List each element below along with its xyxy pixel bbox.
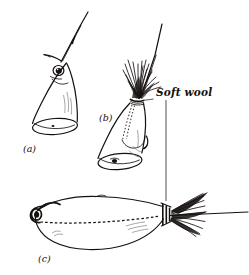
shading-a-3 (71, 98, 72, 115)
shading-b-1 (138, 130, 139, 148)
panel-b-label: (b) (99, 112, 113, 123)
panel-a-group: (a) (23, 12, 88, 154)
internal-dashed-line-c (41, 216, 161, 223)
shading-c-2 (54, 234, 63, 236)
soft-wool-pointer-line (144, 99, 154, 100)
illustration-canvas: (a) (0, 0, 249, 275)
trailing-line-c (170, 212, 248, 216)
soft-wool-label: Soft wool (156, 86, 212, 98)
bait-body-top-c (36, 196, 163, 212)
cut-end-dot-a (52, 125, 55, 127)
shading-c-4 (128, 226, 147, 230)
binding-thread-b (131, 100, 144, 106)
eye-highlight-a (57, 69, 59, 71)
shading-c-5 (132, 229, 149, 233)
stitch-line-b2 (127, 106, 135, 140)
shading-a-2 (64, 95, 66, 113)
fish-back-b (142, 104, 146, 154)
cut-end-inner-b (100, 159, 140, 164)
shading-c-3 (126, 222, 145, 226)
hook-point-c (38, 203, 60, 210)
fish-pupil-a (56, 68, 62, 74)
tail-binding-c (161, 203, 171, 226)
panel-b-group: (b) (97, 24, 162, 171)
hook-eye-loop-c (30, 206, 44, 223)
bait-body-bottom-c (35, 212, 163, 250)
panel-c-group: (c) (30, 192, 248, 264)
panel-c-label: (c) (38, 253, 51, 264)
shading-a-1 (67, 92, 69, 112)
fishing-bait-diagram: (a) (0, 0, 249, 275)
cut-end-inner-a (35, 124, 75, 129)
shading-c-1 (52, 231, 61, 233)
soft-wool-annotation: Soft wool (144, 86, 213, 201)
hook-barb-dot-a (71, 41, 73, 44)
fish-eye-b (112, 159, 117, 163)
fish-back-a (67, 63, 78, 122)
panel-a-label: (a) (23, 143, 36, 154)
